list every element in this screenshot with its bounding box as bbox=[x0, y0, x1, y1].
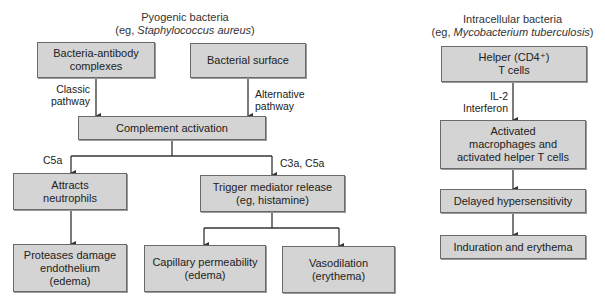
activated-macrophages-box: Activated macrophages and activated help… bbox=[440, 120, 586, 169]
classic-pathway-label: Classic pathway bbox=[40, 83, 90, 107]
helper-t-cells-box: Helper (CD4⁺) T cells bbox=[441, 46, 587, 82]
induration-erythema-box: Induration and erythema bbox=[440, 235, 586, 259]
intracellular-heading-example: (eg, Mycobacterium tuberculosis) bbox=[420, 26, 605, 39]
intracellular-species: Mycobacterium tuberculosis bbox=[454, 26, 590, 38]
proteases-damage-box: Proteases damage endothelium (edema) bbox=[13, 244, 127, 292]
pyogenic-heading-example: (eg, Staphylococcus aureus) bbox=[90, 24, 280, 37]
complement-activation-box: Complement activation bbox=[78, 116, 266, 140]
il2-interferon-label: IL-2 Interferon bbox=[450, 90, 508, 114]
intracellular-heading-title: Intracellular bacteria bbox=[420, 13, 605, 26]
capillary-permeability-box: Capillary permeability (edema) bbox=[144, 245, 266, 292]
delayed-hypersensitivity-box: Delayed hypersensitivity bbox=[440, 189, 586, 213]
attracts-neutrophils-box: Attracts neutrophils bbox=[13, 173, 127, 210]
pyogenic-heading-title: Pyogenic bacteria bbox=[90, 11, 280, 24]
pyogenic-species: Staphylococcus aureus bbox=[137, 24, 251, 36]
c3a-c5a-label: C3a, C5a bbox=[280, 157, 324, 169]
alternative-pathway-label: Alternative pathway bbox=[255, 88, 325, 112]
vasodilation-box: Vasodilation (erythema) bbox=[282, 246, 395, 293]
pyogenic-heading: Pyogenic bacteria (eg, Staphylococcus au… bbox=[90, 11, 280, 37]
c5a-label: C5a bbox=[43, 154, 62, 166]
trigger-mediator-box: Trigger mediator release (eg, histamine) bbox=[200, 175, 345, 212]
bacterial-surface-box: Bacterial surface bbox=[190, 43, 306, 78]
intracellular-heading: Intracellular bacteria (eg, Mycobacteriu… bbox=[420, 13, 605, 39]
bacteria-antibody-box: Bacteria-antibody complexes bbox=[37, 42, 155, 78]
